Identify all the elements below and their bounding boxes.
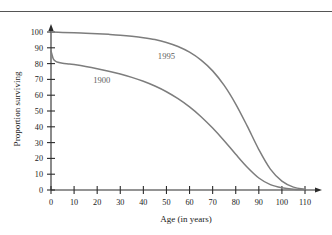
x-axis-title: Age (in years) bbox=[160, 214, 211, 224]
x-tick-label: 40 bbox=[139, 198, 147, 207]
x-tick-label: 30 bbox=[116, 198, 124, 207]
curve-1900 bbox=[51, 51, 305, 190]
x-tick-label: 10 bbox=[70, 198, 78, 207]
x-tick-label: 100 bbox=[276, 198, 288, 207]
y-tick-label: 60 bbox=[35, 91, 43, 100]
y-tick-label: 70 bbox=[35, 75, 43, 84]
survival-curve-figure: 0102030405060708090100010203040506070809… bbox=[0, 0, 332, 235]
series-annotations: 19001995 bbox=[93, 51, 175, 85]
x-tick-label: 90 bbox=[255, 198, 263, 207]
x-tick-label: 0 bbox=[49, 198, 53, 207]
y-tick-label: 90 bbox=[35, 44, 43, 53]
y-axis-title: Proportion surviving bbox=[12, 71, 22, 146]
curve-label-1900: 1900 bbox=[93, 75, 110, 85]
y-tick-label: 0 bbox=[39, 186, 43, 195]
y-tick-label: 20 bbox=[35, 154, 43, 163]
y-tick-label: 100 bbox=[31, 28, 43, 37]
y-tick-label: 80 bbox=[35, 60, 43, 69]
y-axis-arrowhead bbox=[48, 24, 53, 31]
y-tick-label: 30 bbox=[35, 139, 43, 148]
data-curves bbox=[51, 32, 305, 190]
y-tick-label: 40 bbox=[35, 123, 43, 132]
x-tick-label: 50 bbox=[162, 198, 170, 207]
x-tick-label: 70 bbox=[209, 198, 217, 207]
x-axis-arrowhead bbox=[315, 187, 322, 192]
curve-label-1995: 1995 bbox=[158, 51, 175, 61]
chart-canvas: 0102030405060708090100010203040506070809… bbox=[0, 0, 332, 235]
x-tick-label: 20 bbox=[93, 198, 101, 207]
x-tick-label: 110 bbox=[299, 198, 311, 207]
y-tick-label: 10 bbox=[35, 170, 43, 179]
x-tick-label: 80 bbox=[232, 198, 240, 207]
x-tick-label: 60 bbox=[185, 198, 193, 207]
y-tick-label: 50 bbox=[35, 107, 43, 116]
curve-1995 bbox=[51, 32, 305, 189]
